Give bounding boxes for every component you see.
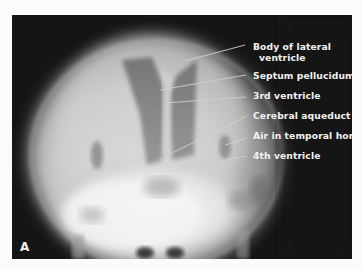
label-air-in-temporal-horn: Air in temporal horn [253,130,352,141]
label-cerebral-aqueduct: Cerebral aqueduct [253,110,351,121]
label-line-1: Body of lateral [253,41,331,52]
label-body-of-lateral-ventricle: Body of lateral ventricle [253,41,331,63]
panel-letter: A [20,240,29,254]
xray-figure: Body of lateral ventricle Septum pelluci… [12,15,352,259]
label-3rd-ventricle: 3rd ventricle [253,90,321,101]
label-line-2: ventricle [253,52,331,63]
label-4th-ventricle: 4th ventricle [253,150,320,161]
label-septum-pellucidum: Septum pellucidum [253,70,352,81]
